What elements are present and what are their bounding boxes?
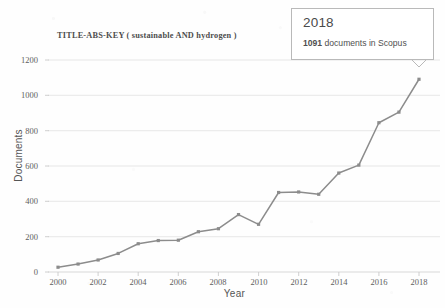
x-axis-ticks	[58, 272, 419, 276]
data-point-2013	[317, 193, 320, 196]
callout-detail-count: 1091	[303, 38, 322, 48]
data-point-2009	[237, 213, 240, 216]
data-point-2015	[357, 164, 360, 167]
x-tick-label-2016: 2016	[361, 277, 397, 287]
y-tick-label-0: 0	[4, 267, 38, 277]
annotation-callout-2018: 2018 1091 documents in Scopus	[291, 8, 434, 60]
x-tick-label-2018: 2018	[401, 277, 437, 287]
data-point-2010	[257, 223, 260, 226]
x-tick-label-2012: 2012	[281, 277, 317, 287]
y-tick-label-1200: 1200	[4, 55, 38, 65]
y-tick-label-1000: 1000	[4, 90, 38, 100]
x-axis-title: Year	[0, 288, 445, 299]
data-point-2001	[76, 262, 79, 265]
x-tick-label-2014: 2014	[321, 277, 357, 287]
data-point-2012	[297, 190, 300, 193]
data-point-2014	[337, 171, 340, 174]
data-point-2002	[97, 258, 100, 261]
chart-figure: TITLE-ABS-KEY ( sustainable AND hydrogen…	[0, 0, 445, 308]
x-tick-label-2000: 2000	[40, 277, 76, 287]
y-tick-label-600: 600	[4, 161, 38, 171]
data-point-2016	[377, 121, 380, 124]
data-point-2017	[397, 111, 400, 114]
x-tick-label-2010: 2010	[241, 277, 277, 287]
x-tick-label-2004: 2004	[120, 277, 156, 287]
data-point-2003	[117, 252, 120, 255]
data-point-2007	[197, 230, 200, 233]
x-tick-label-2008: 2008	[200, 277, 236, 287]
callout-detail-label: 1091 documents in Scopus	[303, 38, 407, 48]
series-markers	[56, 78, 420, 269]
data-point-2000	[56, 266, 59, 269]
data-point-2005	[157, 239, 160, 242]
y-tick-label-400: 400	[4, 196, 38, 206]
callout-year-label: 2018	[303, 15, 334, 30]
callout-detail-text: documents in Scopus	[322, 38, 407, 48]
data-point-2018	[417, 78, 420, 81]
x-tick-label-2002: 2002	[80, 277, 116, 287]
x-tick-label-2006: 2006	[160, 277, 196, 287]
y-tick-label-200: 200	[4, 232, 38, 242]
gridlines	[48, 60, 440, 272]
chart-title: TITLE-ABS-KEY ( sustainable AND hydrogen…	[57, 31, 237, 40]
series-line-documents	[58, 79, 419, 267]
y-axis-ticks	[45, 60, 49, 272]
data-point-2006	[177, 239, 180, 242]
data-point-2008	[217, 227, 220, 230]
x-axis-title-text: Year	[224, 288, 245, 299]
data-point-2011	[277, 191, 280, 194]
data-point-2004	[137, 242, 140, 245]
y-tick-label-800: 800	[4, 126, 38, 136]
callout-tail	[412, 60, 426, 67]
